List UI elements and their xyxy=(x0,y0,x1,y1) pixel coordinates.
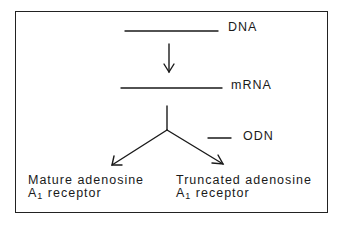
dna-label: DNA xyxy=(228,21,257,34)
left-branch-arrow xyxy=(112,130,167,165)
receptor-prefix: A xyxy=(28,186,37,200)
odn-label: ODN xyxy=(243,130,274,143)
right-branch-arrow xyxy=(167,130,223,164)
mrna-label: mRNA xyxy=(231,79,272,92)
mature-receptor-label: Mature adenosine A1 receptor xyxy=(28,174,144,203)
mature-receptor-line2: A1 receptor xyxy=(28,187,144,203)
truncated-receptor-label: Truncated adenosine A1 receptor xyxy=(176,174,312,203)
receptor-suffix: receptor xyxy=(191,186,249,200)
truncated-receptor-line2: A1 receptor xyxy=(176,187,312,203)
receptor-prefix: A xyxy=(176,186,185,200)
receptor-suffix: receptor xyxy=(43,186,101,200)
